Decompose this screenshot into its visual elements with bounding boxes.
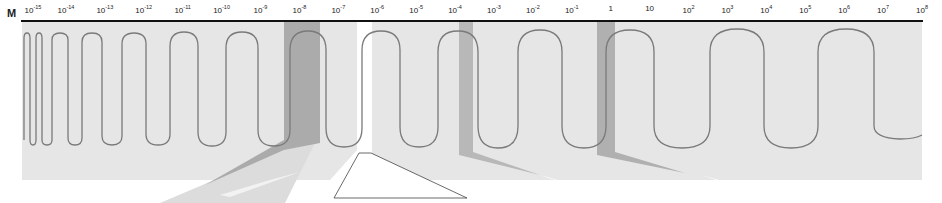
tick-base: 10	[683, 6, 692, 15]
tick-label: 103	[721, 4, 733, 15]
tick-label: 10-14	[57, 4, 74, 15]
tick-label: 10-13	[96, 4, 113, 15]
tick-exponent: -8	[301, 4, 306, 10]
tick-label: 102	[683, 4, 695, 15]
tick-exponent: -10	[222, 4, 230, 10]
tick-exponent: -7	[340, 4, 345, 10]
tick-base: 10	[877, 6, 886, 15]
tick-label: 107	[877, 4, 889, 15]
tick-exponent: -4	[457, 4, 462, 10]
tick-label: 10-15	[25, 4, 42, 15]
tick-base: 10	[174, 6, 183, 15]
spectrum-field-right	[372, 22, 922, 180]
tick-base: 10	[213, 6, 222, 15]
tick-base: 1	[608, 4, 612, 13]
tick-base: 10	[487, 6, 496, 15]
tick-base: 10	[96, 6, 105, 15]
visible-light-gap	[357, 22, 372, 152]
tick-exponent: -9	[262, 4, 267, 10]
tick-label: 10-5	[409, 4, 423, 15]
spectrum-diagram: M 10-1510-1410-1310-1210-1110-1010-910-8…	[0, 0, 942, 203]
tick-label: 10-8	[292, 4, 306, 15]
spectrum-graphic	[0, 0, 942, 203]
tick-base: 10	[565, 6, 574, 15]
tick-exponent: -15	[33, 4, 41, 10]
tick-exponent: -3	[496, 4, 501, 10]
tick-exponent: 8	[925, 4, 928, 10]
tick-label: 10-3	[487, 4, 501, 15]
tick-label: 10-11	[174, 4, 190, 15]
tick-base: 10	[448, 6, 457, 15]
tick-exponent: 3	[730, 4, 733, 10]
tick-label: 10-6	[370, 4, 384, 15]
tick-exponent: -13	[105, 4, 113, 10]
tick-base: 10	[760, 6, 769, 15]
tick-exponent: -2	[535, 4, 540, 10]
tick-label: 10-4	[448, 4, 462, 15]
tick-base: 10	[799, 6, 808, 15]
tick-label: 10-2	[526, 4, 540, 15]
tick-label: 10-7	[331, 4, 345, 15]
tick-exponent: 2	[691, 4, 694, 10]
tick-base: 10	[645, 4, 654, 13]
tick-label: 10-12	[135, 4, 152, 15]
tick-label: 10-9	[254, 4, 268, 15]
tick-exponent: -14	[66, 4, 74, 10]
tick-base: 10	[838, 6, 847, 15]
tick-base: 10	[526, 6, 535, 15]
tick-exponent: -5	[418, 4, 423, 10]
tick-base: 10	[25, 6, 34, 15]
tick-label: 108	[916, 4, 928, 15]
tick-base: 10	[254, 6, 263, 15]
tick-exponent: -11	[183, 4, 191, 10]
tick-base: 10	[370, 6, 379, 15]
right-edge-clip	[922, 22, 942, 203]
tick-exponent: -12	[144, 4, 152, 10]
tick-base: 10	[409, 6, 418, 15]
tick-base: 10	[331, 6, 340, 15]
tick-label: 104	[760, 4, 772, 15]
tick-base: 10	[721, 6, 730, 15]
tick-exponent: 4	[769, 4, 772, 10]
tick-exponent: -1	[574, 4, 579, 10]
tick-label: 10-1	[565, 4, 579, 15]
tick-exponent: 6	[847, 4, 850, 10]
tick-exponent: 5	[808, 4, 811, 10]
tick-exponent: 7	[886, 4, 889, 10]
tick-base: 10	[135, 6, 144, 15]
axis-unit-label: M	[7, 7, 16, 19]
tick-label: 1	[608, 4, 612, 13]
tick-label: 105	[799, 4, 811, 15]
tick-label: 10	[645, 4, 654, 13]
tick-exponent: -6	[379, 4, 384, 10]
tick-label: 10-10	[213, 4, 230, 15]
tick-label: 106	[838, 4, 850, 15]
tick-base: 10	[916, 6, 925, 15]
tick-base: 10	[292, 6, 301, 15]
tick-base: 10	[57, 6, 66, 15]
